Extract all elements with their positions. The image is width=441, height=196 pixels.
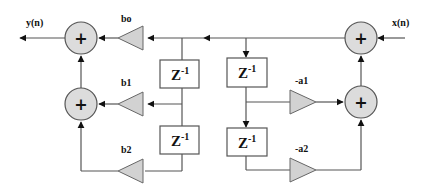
adder-output-top: + [65, 22, 97, 54]
output-label: y(n) [26, 17, 43, 29]
adder-input-middle: + [345, 86, 377, 118]
filter-block-diagram: + + + + Z-1 Z-1 Z-1 Z-1 y(n) x(n) bo b1 … [0, 0, 441, 196]
adder-output-middle: + [65, 88, 97, 120]
delay-exponent: -1 [181, 131, 189, 142]
delay-exponent: -1 [248, 63, 256, 74]
plus-icon: + [74, 29, 87, 48]
gain-b2-icon [118, 159, 143, 183]
gain-a1-label: -a1 [295, 75, 308, 86]
delay-right-1: Z-1 [227, 58, 267, 87]
delay-left-2: Z-1 [160, 126, 199, 154]
gain-b0-icon [118, 26, 143, 50]
gain-b0-label: bo [121, 13, 132, 24]
delay-right-2: Z-1 [227, 128, 267, 156]
gain-a2-icon [290, 158, 316, 182]
input-label: x(n) [392, 17, 409, 29]
delay-label: Z [238, 65, 248, 81]
plus-icon: + [354, 29, 367, 48]
gain-a2-label: -a2 [295, 143, 308, 154]
delay-label: Z [238, 135, 248, 151]
delay-exponent: -1 [248, 133, 256, 144]
gain-a1-icon [290, 90, 316, 114]
plus-icon: + [74, 95, 87, 114]
gain-b1-label: b1 [121, 77, 132, 88]
gain-b1-icon [118, 92, 143, 116]
adder-input-top: + [345, 22, 377, 54]
delay-label: Z [171, 133, 181, 149]
delay-label: Z [171, 67, 181, 83]
delay-exponent: -1 [181, 65, 189, 76]
gain-b2-label: b2 [121, 144, 132, 155]
plus-icon: + [354, 93, 367, 112]
delay-left-1: Z-1 [160, 60, 199, 88]
